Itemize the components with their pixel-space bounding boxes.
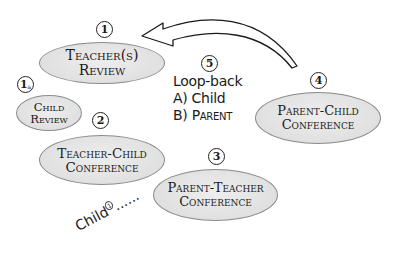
step-number: 1 bbox=[20, 78, 28, 91]
loopback-option-a: A) Child bbox=[173, 90, 242, 107]
step-number: 2 bbox=[97, 114, 105, 127]
node-label-line: Review bbox=[79, 63, 126, 78]
node-parent-child-conference: Parent-Child Conference bbox=[255, 92, 381, 144]
step-marker-2: 2 bbox=[92, 112, 109, 129]
node-label-line: Teacher(s) bbox=[66, 48, 139, 63]
step-marker-4: 4 bbox=[310, 72, 327, 89]
node-parent-teacher-conference: Parent-Teacher Conference bbox=[153, 169, 278, 221]
step-marker-5: 5 bbox=[201, 55, 218, 72]
loopback-title: Loop-back bbox=[173, 73, 242, 90]
node-label-line: Conference bbox=[65, 160, 138, 174]
loopback-option-b: B) Parent bbox=[173, 107, 242, 124]
step-number: 4 bbox=[315, 74, 323, 87]
step-marker-3: 3 bbox=[208, 148, 225, 165]
loopback-text: Loop-back A) Child B) Parent bbox=[173, 73, 242, 124]
node-label-line: Conference bbox=[179, 195, 252, 209]
step-marker-1a: 1a bbox=[17, 76, 34, 93]
loopback-option-b-prefix: B) bbox=[173, 107, 192, 123]
step-number: 1 bbox=[101, 23, 109, 36]
node-label-line: Parent-Child bbox=[277, 104, 358, 118]
node-label-line: Teacher-Child bbox=[57, 146, 147, 160]
node-label-line: Parent-Teacher bbox=[167, 181, 263, 195]
step-marker-1: 1 bbox=[96, 21, 113, 38]
node-label-line: Conference bbox=[282, 118, 355, 132]
step-number: 5 bbox=[206, 57, 214, 70]
node-teachers-review: Teacher(s) Review bbox=[39, 42, 165, 84]
loopback-option-b-label: Parent bbox=[192, 107, 232, 123]
step-subscript: a bbox=[28, 83, 32, 90]
step-number: 3 bbox=[213, 150, 221, 163]
node-child-review: Child Review bbox=[16, 95, 82, 131]
node-label-line: Review bbox=[30, 113, 68, 125]
node-teacher-child-conference: Teacher-Child Conference bbox=[39, 135, 165, 185]
